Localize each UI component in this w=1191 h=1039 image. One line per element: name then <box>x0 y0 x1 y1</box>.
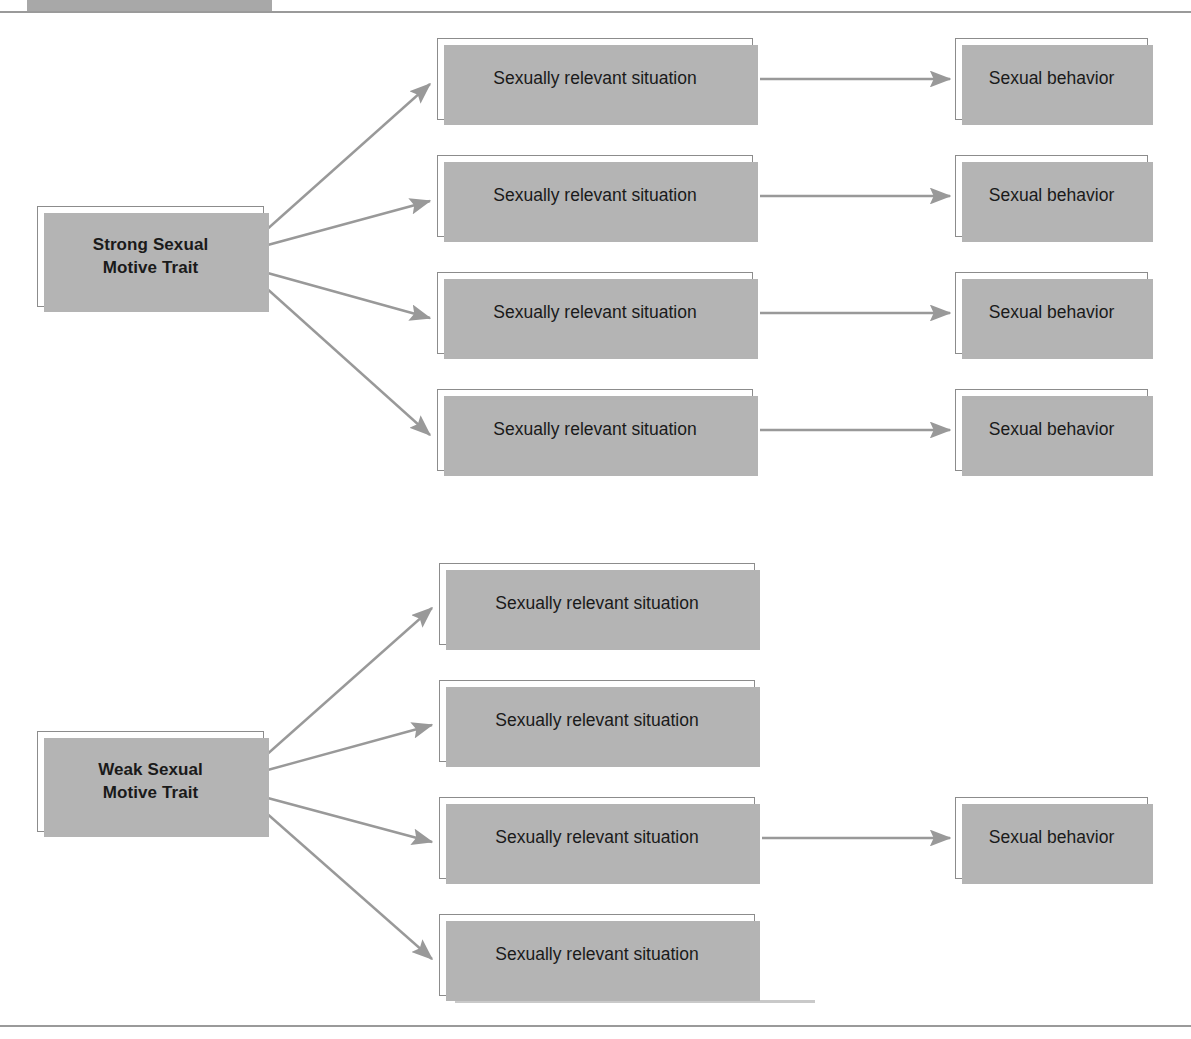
node-label: Weak Sexual Motive Trait <box>88 759 213 804</box>
node-label: Sexual behavior <box>979 826 1125 849</box>
node-label: Sexual behavior <box>979 418 1125 441</box>
node-strong-behavior-3[interactable]: Sexual behavior <box>955 272 1148 354</box>
node-label: Strong Sexual Motive Trait <box>83 234 219 279</box>
node-weak-situation-1[interactable]: Sexually relevant situation <box>439 563 755 645</box>
node-strong-behavior-1[interactable]: Sexual behavior <box>955 38 1148 120</box>
footer-divider-rule <box>0 1025 1191 1027</box>
connector-strong-trait-to-situation-2 <box>264 201 430 246</box>
node-weak-behavior-1[interactable]: Sexual behavior <box>955 797 1148 879</box>
node-label: Sexually relevant situation <box>483 184 706 207</box>
node-weak-sexual-motive-trait[interactable]: Weak Sexual Motive Trait <box>37 731 264 832</box>
node-label: Sexual behavior <box>979 67 1125 90</box>
trait-line-1: Weak Sexual <box>98 760 203 779</box>
connector-weak-trait-to-situation-4 <box>264 811 432 959</box>
node-strong-situation-3[interactable]: Sexually relevant situation <box>437 272 753 354</box>
node-strong-situation-2[interactable]: Sexually relevant situation <box>437 155 753 237</box>
node-weak-situation-4[interactable]: Sexually relevant situation <box>439 914 755 996</box>
node-label: Sexually relevant situation <box>485 943 708 966</box>
node-strong-behavior-2[interactable]: Sexual behavior <box>955 155 1148 237</box>
node-label: Sexually relevant situation <box>485 709 708 732</box>
connector-weak-trait-to-situation-2 <box>264 725 432 771</box>
connector-weak-trait-to-situation-3 <box>264 797 432 842</box>
connector-strong-trait-to-situation-3 <box>264 272 430 318</box>
node-strong-situation-1[interactable]: Sexually relevant situation <box>437 38 753 120</box>
header-tab-strip <box>27 0 272 11</box>
node-label: Sexual behavior <box>979 301 1125 324</box>
node-label: Sexual behavior <box>979 184 1125 207</box>
node-strong-situation-4[interactable]: Sexually relevant situation <box>437 389 753 471</box>
trait-line-2: Motive Trait <box>103 258 199 277</box>
header-caption-text <box>300 0 900 10</box>
node-strong-behavior-4[interactable]: Sexual behavior <box>955 389 1148 471</box>
node-label: Sexually relevant situation <box>485 592 708 615</box>
figure-canvas: Strong Sexual Motive Trait Sexually rele… <box>0 0 1191 1039</box>
node-strong-sexual-motive-trait[interactable]: Strong Sexual Motive Trait <box>37 206 264 307</box>
connector-strong-trait-to-situation-4 <box>264 286 430 435</box>
trait-line-1: Strong Sexual <box>93 235 209 254</box>
node-weak-situation-2[interactable]: Sexually relevant situation <box>439 680 755 762</box>
node-label: Sexually relevant situation <box>485 826 708 849</box>
node-weak-situation-3[interactable]: Sexually relevant situation <box>439 797 755 879</box>
header-divider-rule <box>0 11 1191 13</box>
connector-weak-trait-to-situation-1 <box>264 608 432 757</box>
trait-line-2: Motive Trait <box>103 783 199 802</box>
connector-strong-trait-to-situation-1 <box>264 84 430 232</box>
node-label: Sexually relevant situation <box>483 301 706 324</box>
node-label: Sexually relevant situation <box>483 67 706 90</box>
node-label: Sexually relevant situation <box>483 418 706 441</box>
